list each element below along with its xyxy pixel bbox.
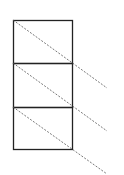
dashed-lines-group	[13, 20, 107, 174]
dashed-line-1	[13, 20, 107, 88]
boxes-group	[14, 21, 73, 150]
stacked-boxes-diagram	[0, 0, 124, 175]
dashed-line-2	[13, 63, 107, 131]
dashed-line-3	[13, 107, 107, 174]
